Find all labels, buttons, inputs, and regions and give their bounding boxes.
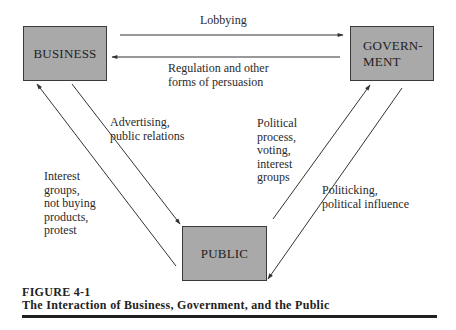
label-politicking: Politicking, political influence: [322, 184, 409, 211]
caption-rule: [22, 315, 437, 318]
figure-title: The Interaction of Business, Government,…: [22, 298, 330, 313]
label-advertising: Advertising, public relations: [110, 116, 184, 143]
label-regulation: Regulation and other forms of persuasion: [168, 62, 269, 89]
node-business: BUSINESS: [23, 26, 107, 81]
node-government-label: GOVERN- MENT: [363, 38, 423, 70]
label-lobbying: Lobbying: [200, 14, 247, 28]
node-business-label: BUSINESS: [33, 46, 96, 62]
label-political-process: Political process, voting, interest grou…: [257, 117, 297, 185]
node-public-label: PUBLIC: [201, 246, 248, 262]
figure-diagram: BUSINESS GOVERN- MENT PUBLIC Lobbying Re…: [0, 0, 456, 330]
label-interest-groups: Interest groups, not buying products, pr…: [44, 170, 96, 238]
node-public: PUBLIC: [182, 226, 267, 281]
node-government: GOVERN- MENT: [350, 26, 434, 81]
